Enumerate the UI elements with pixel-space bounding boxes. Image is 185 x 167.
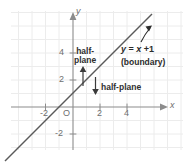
coordinate-graph-figure: y x O 4 2 -2 -2 2 4 half- plane half-pla… xyxy=(0,0,185,167)
origin-label: O xyxy=(63,109,70,118)
upper-half-plane-line2: plane xyxy=(74,56,96,65)
x-axis-label: x xyxy=(170,101,175,110)
boundary-note-label: (boundary) xyxy=(121,58,165,67)
y-tick-label-neg2: -2 xyxy=(55,129,63,138)
equation-constant: 1 xyxy=(149,44,154,54)
x-tick-label-4: 4 xyxy=(124,109,129,118)
equation-label: y = x +1 xyxy=(121,45,154,54)
x-axis xyxy=(11,104,168,111)
y-tick-label-4: 4 xyxy=(59,48,64,57)
x-tick-label-neg2: -2 xyxy=(40,109,48,118)
y-axis-label: y xyxy=(76,7,81,16)
upper-half-plane-annotation: half- plane xyxy=(74,47,96,65)
up-arrow-icon xyxy=(80,66,87,86)
equation-lhs: y xyxy=(121,44,126,54)
x-tick-label-2: 2 xyxy=(97,109,102,118)
y-tick-label-2: 2 xyxy=(59,75,64,84)
lower-half-plane-annotation: half-plane xyxy=(101,83,141,92)
y-axis xyxy=(70,12,77,150)
equation-equals: = xyxy=(129,44,134,54)
equation-rhs-var: x xyxy=(136,44,141,54)
graph-canvas xyxy=(0,0,185,167)
